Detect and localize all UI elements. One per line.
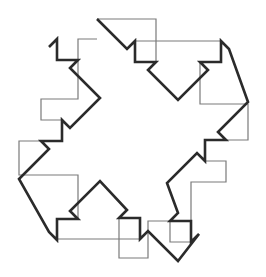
- geometric-figure-svg: [0, 0, 266, 277]
- figure-canvas: [0, 0, 266, 277]
